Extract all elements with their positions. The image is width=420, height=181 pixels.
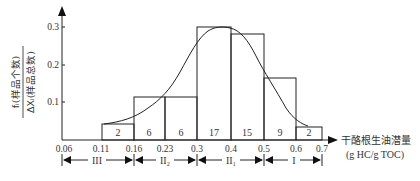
bar-count: 2: [116, 127, 121, 138]
zone-label-III: III: [92, 155, 102, 166]
arrow-right-icon: [313, 156, 321, 164]
bar-count: 2: [307, 127, 312, 138]
x-tick: 0.7: [316, 144, 328, 154]
y-title-denominator: ΔXᵢ(样品总数): [25, 51, 36, 113]
y-axis: 0.3 0.2 0.1: [47, 6, 66, 140]
x-tick: 0.23: [157, 144, 174, 154]
zone-label-I: I: [292, 155, 295, 166]
bar-count: 17: [209, 127, 219, 138]
x-axis-arrow-icon: [328, 136, 338, 144]
y-axis-title: fᵢ(样品个数) ΔXᵢ(样品总数): [10, 46, 36, 118]
arrow-left-icon: [135, 156, 143, 164]
y-tick-0.3: 0.3: [47, 22, 59, 32]
x-axis-title: 干酪根生油潜量: [341, 134, 411, 146]
arrow-right-icon: [188, 156, 196, 164]
bar-count: 6: [147, 127, 152, 138]
x-tick: 0.06: [56, 144, 73, 154]
x-tick: 0.6: [290, 144, 302, 154]
zone-label-II2: II₂: [160, 155, 170, 166]
bar-count-labels: 2 6 6 17 15 9 2: [116, 127, 312, 138]
y-title-numerator: fᵢ(样品个数): [10, 56, 21, 108]
x-axis-unit: (g HC/g TOC): [346, 149, 404, 161]
x-tick: 0.3: [191, 144, 203, 154]
bar-count: 15: [242, 127, 252, 138]
histogram-chart: 0.3 0.2 0.1 fᵢ(样品个数) ΔXᵢ(样品总数) 0.06 0.11…: [0, 0, 420, 181]
arrow-left-icon: [63, 156, 71, 164]
x-tick: 0.5: [258, 144, 270, 154]
arrow-left-icon: [198, 156, 206, 164]
x-tick: 0.4: [225, 144, 237, 154]
bar-count: 6: [179, 127, 184, 138]
bar-count: 9: [278, 127, 283, 138]
arrow-right-icon: [125, 156, 133, 164]
bar-0.4-0.5: [231, 34, 264, 140]
bar-0.3-0.4: [197, 27, 231, 140]
y-tick-0.2: 0.2: [47, 60, 59, 70]
y-tick-0.1: 0.1: [47, 97, 59, 107]
fitted-curve: [104, 27, 308, 126]
y-axis-arrow-icon: [58, 6, 66, 16]
arrow-left-icon: [265, 156, 273, 164]
histogram-bars: [102, 27, 322, 140]
zone-label-II1: II₁: [226, 155, 236, 166]
arrow-right-icon: [255, 156, 263, 164]
x-tick: 0.11: [93, 144, 110, 154]
x-tick: 0.16: [126, 144, 143, 154]
